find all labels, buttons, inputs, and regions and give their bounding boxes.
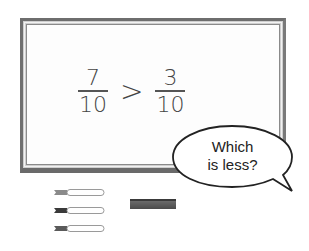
bubble-line-2: is less? (170, 156, 295, 174)
right-fraction: 3 10 (155, 67, 185, 116)
right-denominator: 10 (156, 94, 184, 116)
eraser (130, 199, 176, 209)
left-numerator: 7 (86, 67, 100, 89)
greater-than-sign: > (120, 75, 143, 108)
left-fraction: 7 10 (78, 67, 108, 116)
marker-1 (53, 189, 105, 196)
marker-3 (53, 225, 105, 232)
bubble-line-1: Which (170, 138, 295, 156)
speech-bubble-text: Which is less? (170, 138, 295, 174)
right-numerator: 3 (163, 67, 177, 89)
marker-2 (53, 207, 105, 214)
left-denominator: 10 (79, 94, 107, 116)
fraction-comparison: 7 10 > 3 10 (78, 64, 213, 119)
